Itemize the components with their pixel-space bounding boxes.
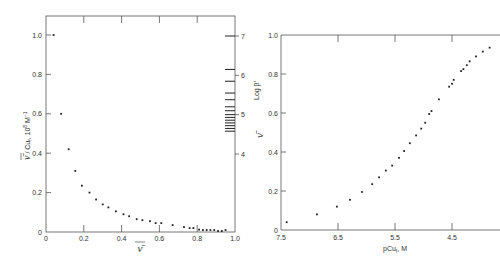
data-point [438, 98, 440, 100]
data-point [453, 79, 455, 81]
y-tick-label: 0.4 [32, 150, 42, 157]
right-x-axis-label: pCuf, M [383, 245, 407, 254]
y-tick-label: 0 [274, 227, 278, 234]
secondary-y-tick-label: 6 [241, 72, 245, 79]
data-point [463, 68, 465, 70]
x-tick-label: 0 [44, 235, 48, 242]
svg-text:ν̄: ν̄ [253, 130, 265, 138]
data-point [489, 47, 491, 49]
data-point [89, 192, 91, 194]
data-point [385, 170, 387, 172]
left-plot-frame [46, 16, 235, 232]
right-plot-frame [281, 35, 500, 230]
figure-svg: 00.20.40.60.81.0 00.20.40.60.81.0 4567 ν… [0, 0, 500, 265]
x-tick-label: 0.8 [192, 235, 202, 242]
x-tick-label: 0.6 [155, 235, 165, 242]
y-tick-label: 0.8 [268, 71, 278, 78]
data-point [81, 185, 83, 187]
data-point [213, 229, 215, 231]
data-point [141, 219, 143, 221]
data-point [371, 183, 373, 185]
data-point [469, 60, 471, 62]
y-tick-label: 1.0 [32, 32, 42, 39]
data-point [217, 230, 219, 232]
data-point [398, 157, 400, 159]
x-tick-label: 6.5 [333, 234, 343, 241]
data-point [172, 224, 174, 226]
svg-text:ν̄ / Cuf, 108 M−1: ν̄ / Cuf, 108 M−1 [21, 111, 33, 160]
data-point [403, 150, 405, 152]
data-point [460, 70, 462, 72]
figure: 00.20.40.60.81.0 00.20.40.60.81.0 4567 ν… [0, 0, 500, 265]
data-point [286, 221, 288, 223]
secondary-y-tick-label: 4 [241, 151, 245, 158]
data-point [448, 86, 450, 88]
y-tick-label: 0.6 [268, 110, 278, 117]
data-point [160, 222, 162, 224]
y-tick-label: 1.0 [268, 32, 278, 39]
right-y-axis-label: ν̄ [253, 130, 265, 138]
data-point [415, 135, 417, 137]
right-data-points [286, 47, 491, 223]
left-scatter-chart: 00.20.40.60.81.0 00.20.40.60.81.0 4567 ν… [21, 16, 261, 254]
svg-text:Log β': Log β' [253, 81, 261, 100]
data-point [68, 148, 70, 150]
left-secondary-y-axis-label: Log β' [253, 81, 261, 100]
y-tick-label: 0 [38, 229, 42, 236]
data-point [225, 229, 227, 231]
data-point [451, 83, 453, 85]
y-tick-label: 0.6 [32, 110, 42, 117]
data-point [95, 199, 97, 201]
x-tick-label: 5.5 [390, 234, 400, 241]
data-point [221, 230, 223, 232]
data-point [74, 170, 76, 172]
x-tick-label: 1.0 [230, 235, 240, 242]
data-point [466, 64, 468, 66]
data-point [198, 229, 200, 231]
left-x-axis-ticks: 00.20.40.60.81.0 [44, 16, 240, 242]
data-point [115, 210, 117, 212]
y-tick-label: 0.8 [32, 71, 42, 78]
data-point [155, 222, 157, 224]
secondary-y-tick-label: 7 [241, 33, 245, 40]
data-point [183, 226, 185, 228]
x-tick-label: 0.2 [79, 235, 89, 242]
data-point [206, 229, 208, 231]
data-point [424, 122, 426, 124]
data-point [431, 110, 433, 112]
x-tick-label: 7.5 [276, 234, 286, 241]
data-point [53, 34, 55, 36]
secondary-y-tick-label: 5 [241, 111, 245, 118]
data-point [210, 229, 212, 231]
data-point [136, 218, 138, 220]
y-tick-label: 0.4 [268, 149, 278, 156]
y-tick-label: 0.2 [268, 188, 278, 195]
x-tick-label: 0.4 [117, 235, 127, 242]
left-y-axis-label: ν̄ / Cuf, 108 M−1 [21, 111, 33, 160]
data-point [128, 215, 130, 217]
x-tick-label: 4.5 [447, 234, 457, 241]
data-point [482, 51, 484, 53]
data-point [475, 56, 477, 58]
data-point [189, 227, 191, 229]
data-point [378, 176, 380, 178]
data-point [336, 206, 338, 208]
left-data-points [53, 34, 227, 232]
data-point [349, 199, 351, 201]
data-point [149, 220, 151, 222]
data-point [420, 128, 422, 130]
data-point [102, 204, 104, 206]
right-scatter-chart: 7.56.55.54.5 00.20.40.60.81.0 pCuf, M ν̄ [253, 32, 500, 255]
right-y-axis-ticks: 00.20.40.60.81.0 [268, 32, 286, 234]
data-point [202, 229, 204, 231]
data-point [193, 227, 195, 229]
data-point [391, 165, 393, 167]
data-point [361, 191, 363, 193]
right-x-axis-ticks: 7.56.55.54.5 [276, 35, 457, 241]
y-tick-label: 0.2 [32, 189, 42, 196]
data-point [428, 113, 430, 115]
data-point [316, 214, 318, 216]
left-y-axis-ticks: 00.20.40.60.81.0 [32, 32, 51, 236]
data-point [107, 206, 109, 208]
data-point [123, 213, 125, 215]
